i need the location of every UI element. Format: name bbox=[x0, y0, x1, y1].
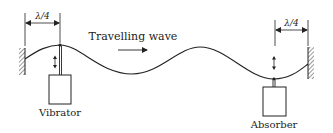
vibrator: Vibrator bbox=[38, 43, 81, 118]
right-wall bbox=[308, 47, 314, 79]
vibrator-motion-arrow-icon bbox=[53, 56, 57, 69]
travelling-wave-annotation: Travelling wave bbox=[89, 30, 178, 50]
vibrator-label: Vibrator bbox=[38, 107, 81, 118]
wave-diagram: λ/4 λ/4 Vibrator Travelling wave bbox=[0, 0, 333, 133]
absorber: Absorber bbox=[250, 56, 298, 130]
travelling-wave-label: Travelling wave bbox=[89, 30, 178, 43]
absorber-motion-arrow-icon bbox=[272, 56, 276, 70]
right-quarter-wavelength-dimension: λ/4 bbox=[275, 18, 308, 46]
right-dimension-label: λ/4 bbox=[283, 18, 299, 28]
absorber-label: Absorber bbox=[250, 119, 298, 130]
wave-string bbox=[25, 45, 308, 79]
left-wall bbox=[19, 48, 25, 75]
left-dimension-label: λ/4 bbox=[34, 11, 50, 21]
left-quarter-wavelength-dimension: λ/4 bbox=[25, 11, 60, 46]
